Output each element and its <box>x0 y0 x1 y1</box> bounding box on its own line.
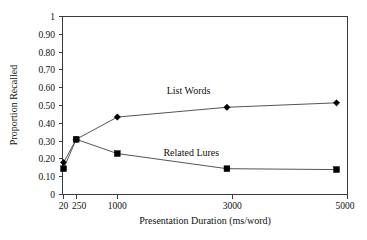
data-point-square <box>114 151 120 157</box>
y-tick-label: 0.40 <box>38 119 55 129</box>
data-point-square <box>224 166 230 172</box>
chart-background <box>0 0 367 240</box>
y-tick-label: 0.70 <box>38 65 55 75</box>
y-tick-label: 0.10 <box>38 172 55 182</box>
chart-container: 0 0.10 0.20 0.30 0.40 0.50 0.60 0.70 0.8… <box>0 0 367 240</box>
x-tick-label: 20 <box>59 201 69 211</box>
data-point-square <box>334 167 340 173</box>
y-tick-label: 0.80 <box>38 48 55 58</box>
x-tick-label: 250 <box>72 201 87 211</box>
x-tick-label: 3000 <box>223 201 242 211</box>
y-tick-label: 0.20 <box>38 154 55 164</box>
y-tick-label: 0.50 <box>38 101 55 111</box>
x-tick-label: 5000 <box>336 201 355 211</box>
x-tick-label: 1000 <box>108 201 127 211</box>
data-point-square <box>61 166 67 172</box>
y-tick-label: 0.60 <box>38 83 55 93</box>
series-label-list-words: List Words <box>167 85 211 96</box>
y-tick-label: 0.30 <box>38 137 55 147</box>
y-tick-label: 0.90 <box>38 30 55 40</box>
x-axis-title: Presentation Duration (ms/word) <box>139 215 271 227</box>
y-axis-title: Proportion Recalled <box>8 65 19 145</box>
y-tick-label: 1 <box>50 12 55 22</box>
series-label-related-lures: Related Lures <box>163 147 219 158</box>
line-chart: 0 0.10 0.20 0.30 0.40 0.50 0.60 0.70 0.8… <box>0 0 367 240</box>
y-tick-label: 0 <box>50 190 55 200</box>
data-point-square <box>73 136 79 142</box>
